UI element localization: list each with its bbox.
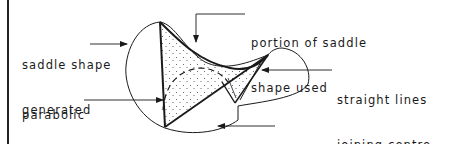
label-parabolic-directrix: parabolic directrix [22,78,85,144]
label-line: parabolic [22,108,85,123]
leader-portion-of-saddle [196,14,245,42]
label-line: saddle shape [22,58,111,73]
label-line: straight lines [337,93,446,108]
label-parabolic-generator: parabolic generator [281,119,420,144]
label-line: portion of saddle [251,36,367,51]
